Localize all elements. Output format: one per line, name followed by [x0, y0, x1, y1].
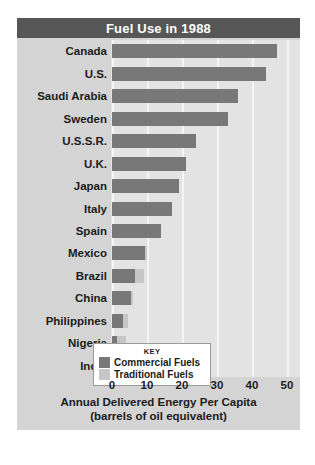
bar-u-k — [112, 157, 186, 171]
bar-segment-commercial — [112, 134, 196, 148]
category-label: Japan — [74, 179, 107, 193]
category-label: Italy — [84, 202, 107, 216]
category-axis-labels: CanadaU.S.Saudi ArabiaSwedenU.S.S.R.U.K.… — [17, 40, 111, 377]
bar-spain — [112, 224, 161, 238]
category-label: Philippines — [46, 314, 107, 328]
chart-panel: Fuel Use in 1988 CanadaU.S.Saudi ArabiaS… — [17, 18, 300, 430]
axis-title-line-2: (barrels of oil equivalent) — [17, 410, 300, 424]
legend-swatch-icon — [99, 357, 110, 368]
bar-segment-commercial — [112, 291, 131, 305]
axis-tick-50: 50 — [281, 379, 294, 391]
category-label: U.K. — [84, 157, 107, 171]
gridline-40 — [252, 40, 254, 377]
bar-segment-traditional — [123, 314, 128, 328]
category-label: U.S.S.R. — [62, 134, 107, 148]
bar-saudi-arabia — [112, 89, 238, 103]
axis-tick-0: 0 — [109, 379, 115, 391]
axis-tick-40: 40 — [246, 379, 259, 391]
bar-brazil — [112, 269, 144, 283]
category-label: Canada — [65, 44, 107, 58]
bar-segment-traditional — [131, 291, 133, 305]
bar-segment-commercial — [112, 202, 172, 216]
category-label: Saudi Arabia — [37, 89, 107, 103]
axis-title-line-1: Annual Delivered Energy Per Capita — [17, 396, 300, 410]
gridline-50 — [287, 40, 289, 377]
legend-heading: KEY — [94, 347, 210, 356]
category-label: China — [75, 291, 107, 305]
legend-label: Commercial Fuels — [114, 357, 200, 368]
category-label: Mexico — [68, 246, 107, 260]
bar-canada — [112, 44, 277, 58]
plot-area — [111, 40, 300, 377]
legend-item: Commercial Fuels — [99, 357, 210, 368]
bar-segment-traditional — [135, 269, 144, 283]
axis-tick-10: 10 — [141, 379, 154, 391]
bar-philippines — [112, 314, 128, 328]
value-axis-ticks: 01020304050 — [111, 379, 300, 395]
axis-tick-30: 30 — [211, 379, 224, 391]
axis-title: Annual Delivered Energy Per Capita (barr… — [17, 396, 300, 423]
bar-segment-commercial — [112, 224, 161, 238]
bar-segment-commercial — [112, 112, 228, 126]
chart-title-bar: Fuel Use in 1988 — [17, 18, 300, 38]
bar-segment-commercial — [112, 314, 123, 328]
bar-china — [112, 291, 133, 305]
category-label: Spain — [76, 224, 107, 238]
bar-u-s-s-r — [112, 134, 196, 148]
category-label: Sweden — [64, 112, 107, 126]
bar-segment-commercial — [112, 67, 266, 81]
page-title: Fuel Use in 1988 — [106, 21, 211, 36]
bar-sweden — [112, 112, 228, 126]
bar-mexico — [112, 246, 147, 260]
bar-italy — [112, 202, 172, 216]
bar-segment-commercial — [112, 44, 277, 58]
legend-items: Commercial FuelsTraditional Fuels — [94, 357, 210, 380]
bar-segment-commercial — [112, 246, 145, 260]
plot-area-wrapper: CanadaU.S.Saudi ArabiaSwedenU.S.S.R.U.K.… — [17, 40, 300, 377]
bar-segment-commercial — [112, 157, 186, 171]
bar-japan — [112, 179, 179, 193]
bar-segment-commercial — [112, 269, 135, 283]
category-label: Brazil — [76, 269, 107, 283]
bar-u-s — [112, 67, 266, 81]
bar-segment-commercial — [112, 89, 238, 103]
axis-tick-20: 20 — [176, 379, 189, 391]
bar-segment-commercial — [112, 179, 179, 193]
category-label: U.S. — [85, 67, 107, 81]
bar-segment-traditional — [145, 246, 147, 260]
